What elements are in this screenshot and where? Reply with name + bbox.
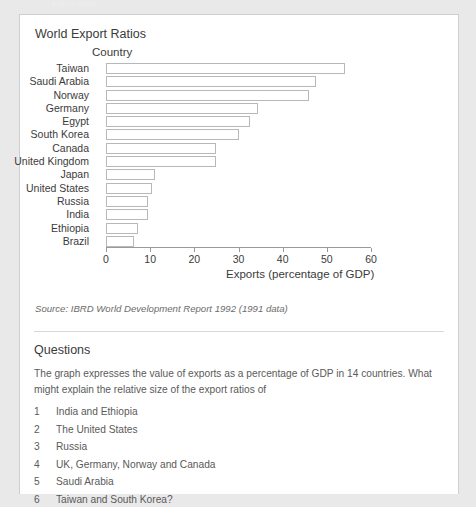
- bar-category-label: Taiwan: [0, 62, 89, 75]
- x-axis-tick-label: 10: [144, 253, 156, 265]
- x-axis-tick: [194, 248, 195, 252]
- bar: [106, 143, 216, 154]
- bar-row: Germany: [20, 102, 458, 115]
- bar-category-label: South Korea: [0, 128, 89, 141]
- bar-track: [106, 63, 345, 74]
- questions-heading: Questions: [34, 343, 446, 357]
- bar-category-label: Germany: [0, 102, 89, 115]
- x-axis-tick-label: 50: [321, 253, 333, 265]
- x-axis-tick: [327, 248, 328, 252]
- bar-row: Ethiopia: [20, 222, 458, 235]
- x-axis-tick-label: 20: [188, 253, 200, 265]
- bar-track: [106, 196, 148, 207]
- question-item: 4UK, Germany, Norway and Canada: [34, 456, 446, 474]
- bar-track: [106, 223, 138, 234]
- question-item: 2The United States: [34, 421, 446, 439]
- bar: [106, 129, 239, 140]
- bar-category-label: United States: [0, 182, 89, 195]
- question-item: 1India and Ethiopia: [34, 403, 446, 421]
- bar-category-label: Norway: [0, 89, 89, 102]
- x-axis-tick: [283, 248, 284, 252]
- bar-row: United States: [20, 182, 458, 195]
- bar-category-label: Egypt: [0, 115, 89, 128]
- bar: [106, 209, 148, 220]
- bar-row: South Korea: [20, 128, 458, 141]
- chart-source-note: Source: IBRD World Development Report 19…: [35, 303, 288, 314]
- bar-track: [106, 116, 250, 127]
- bar-category-label: Saudi Arabia: [0, 75, 89, 88]
- bar-track: [106, 103, 258, 114]
- page-top-strip: Export ratios: [0, 0, 476, 14]
- question-text: Russia: [56, 438, 446, 456]
- x-axis-tick: [239, 248, 240, 252]
- bar: [106, 183, 152, 194]
- bar: [106, 223, 138, 234]
- x-axis-tick: [106, 248, 107, 252]
- content-card: World Export Ratios Country TaiwanSaudi …: [19, 14, 459, 494]
- question-text: India and Ethiopia: [56, 403, 446, 421]
- bar-track: [106, 129, 239, 140]
- bar-track: [106, 90, 309, 101]
- question-text: Taiwan and South Korea?: [56, 491, 446, 507]
- bar-track: [106, 156, 216, 167]
- bar-track: [106, 143, 216, 154]
- bar-row: Japan: [20, 168, 458, 181]
- section-divider: [34, 331, 444, 332]
- bar-row: Canada: [20, 142, 458, 155]
- bar: [106, 236, 134, 247]
- x-axis-tick-label: 0: [103, 253, 109, 265]
- bar: [106, 103, 258, 114]
- x-axis-tick: [150, 248, 151, 252]
- question-number: 1: [34, 403, 56, 421]
- bar-track: [106, 169, 155, 180]
- question-number: 4: [34, 456, 56, 474]
- bar-row: India: [20, 208, 458, 221]
- question-text: Saudi Arabia: [56, 473, 446, 491]
- x-axis-tick-label: 30: [233, 253, 245, 265]
- bar-track: [106, 209, 148, 220]
- bar: [106, 76, 316, 87]
- question-number: 6: [34, 491, 56, 507]
- bar-row: Taiwan: [20, 62, 458, 75]
- bar-category-label: Russia: [0, 195, 89, 208]
- bar-category-label: Canada: [0, 142, 89, 155]
- bar: [106, 156, 216, 167]
- bar: [106, 169, 155, 180]
- question-item: 5Saudi Arabia: [34, 473, 446, 491]
- chart-panel: World Export Ratios Country TaiwanSaudi …: [20, 15, 458, 285]
- bar-category-label: Brazil: [0, 235, 89, 248]
- chart-title: World Export Ratios: [35, 27, 146, 41]
- questions-section: Questions The graph expresses the value …: [34, 343, 446, 507]
- bar-track: [106, 183, 152, 194]
- cut-off-header-text: Export ratios: [52, 0, 97, 7]
- questions-list: 1India and Ethiopia2The United States3Ru…: [34, 403, 446, 507]
- chart-plot-area: TaiwanSaudi ArabiaNorwayGermanyEgyptSout…: [20, 62, 458, 247]
- bar-row: Norway: [20, 89, 458, 102]
- bar-row: Russia: [20, 195, 458, 208]
- bar: [106, 196, 148, 207]
- bar-category-label: India: [0, 208, 89, 221]
- y-axis-title: Country: [92, 46, 132, 58]
- bar-category-label: United Kingdom: [0, 155, 89, 168]
- x-axis-tick-label: 60: [365, 253, 377, 265]
- bar-category-label: Ethiopia: [0, 222, 89, 235]
- bar-row: United Kingdom: [20, 155, 458, 168]
- x-axis-tick-label: 40: [277, 253, 289, 265]
- bar-row: Egypt: [20, 115, 458, 128]
- bar: [106, 63, 345, 74]
- bar-track: [106, 236, 134, 247]
- questions-intro-text: The graph expresses the value of exports…: [34, 366, 446, 398]
- question-number: 2: [34, 421, 56, 439]
- bar-row: Saudi Arabia: [20, 75, 458, 88]
- bar: [106, 116, 250, 127]
- question-item: 3Russia: [34, 438, 446, 456]
- x-axis-tick: [371, 248, 372, 252]
- bar-track: [106, 76, 316, 87]
- question-number: 3: [34, 438, 56, 456]
- bar-category-label: Japan: [0, 168, 89, 181]
- x-axis-title: Exports (percentage of GDP): [226, 268, 374, 280]
- question-text: UK, Germany, Norway and Canada: [56, 456, 446, 474]
- question-number: 5: [34, 473, 56, 491]
- question-item: 6Taiwan and South Korea?: [34, 491, 446, 507]
- question-text: The United States: [56, 421, 446, 439]
